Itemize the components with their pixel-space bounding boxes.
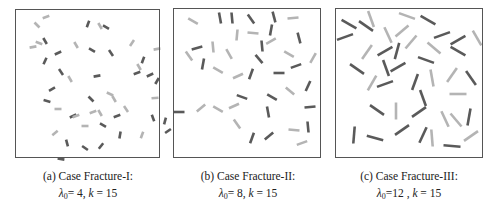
caption-a: (a) Case Fracture-I: λ0= 4, k = 15 (6, 168, 170, 205)
panel-frame-c (335, 8, 483, 158)
k-value: = 15 (420, 187, 441, 199)
k-value: = 15 (96, 187, 117, 199)
caption-b: (b) Case Fracture-II: λ0= 8, k = 15 (166, 168, 330, 205)
lambda-value: =12 (386, 187, 404, 199)
fracture-panel-a (15, 9, 160, 158)
k-symbol: k (412, 187, 417, 199)
fracture-segment (164, 118, 166, 125)
panel-frame-b (173, 8, 321, 158)
lambda-value: = 4 (68, 187, 83, 199)
lambda-value: = 8 (228, 187, 243, 199)
panel-frame-a (15, 9, 160, 158)
caption-title-a: (a) Case Fracture-I: (6, 168, 170, 185)
fracture-panel-b (173, 8, 321, 158)
caption-c: (c) Case Fracture-III: λ0=12 , k = 15 (327, 168, 491, 205)
caption-params-c: λ0=12 , k = 15 (327, 185, 491, 205)
fracture-panel-c (335, 8, 483, 158)
caption-title-b: (b) Case Fracture-II: (166, 168, 330, 185)
k-symbol: k (249, 187, 254, 199)
fracture-segment (165, 129, 171, 133)
caption-params-b: λ0= 8, k = 15 (166, 185, 330, 205)
fracture-segment (58, 158, 65, 159)
k-value: = 15 (256, 187, 277, 199)
caption-title-c: (c) Case Fracture-III: (327, 168, 491, 185)
caption-params-a: λ0= 4, k = 15 (6, 185, 170, 205)
k-symbol: k (89, 187, 94, 199)
